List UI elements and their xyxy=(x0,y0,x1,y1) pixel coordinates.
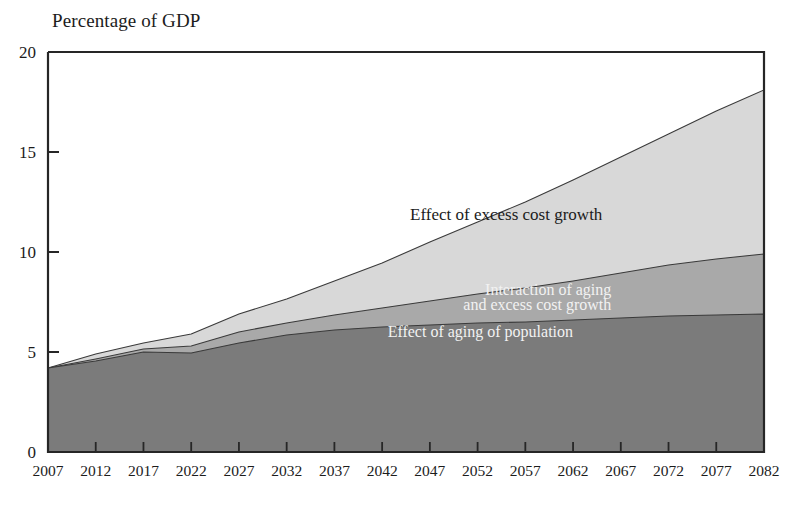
x-tick-label: 2037 xyxy=(319,462,350,479)
x-tick-label: 2077 xyxy=(701,462,732,479)
y-tick-label: 20 xyxy=(19,43,36,62)
y-tick-label: 5 xyxy=(28,343,37,362)
area-annotation-label: and excess cost growth xyxy=(463,296,611,314)
chart-container: Percentage of GDP 05101520 2007201220172… xyxy=(0,0,807,507)
y-tick-label: 10 xyxy=(19,243,36,262)
x-tick-label: 2057 xyxy=(510,462,541,479)
x-tick-label: 2067 xyxy=(605,462,636,479)
y-tick-label: 0 xyxy=(28,443,37,462)
area-annotation-label: Effect of excess cost growth xyxy=(410,205,603,224)
x-tick-label: 2007 xyxy=(33,462,64,479)
area-chart-svg: 05101520 2007201220172022202720322037204… xyxy=(0,0,807,507)
x-tick-label: 2082 xyxy=(749,462,780,479)
x-tick-label: 2012 xyxy=(80,462,111,479)
x-tick-label: 2047 xyxy=(414,462,445,479)
area-annotation-label: Effect of aging of population xyxy=(388,323,573,341)
x-tick-label: 2017 xyxy=(128,462,159,479)
y-tick-label: 15 xyxy=(19,143,36,162)
x-tick-label: 2072 xyxy=(653,462,684,479)
x-tick-label: 2052 xyxy=(462,462,493,479)
x-tick-label: 2022 xyxy=(176,462,207,479)
x-tick-label: 2062 xyxy=(558,462,589,479)
x-tick-label: 2032 xyxy=(271,462,302,479)
stacked-area-bands xyxy=(48,90,764,473)
x-tick-label: 2027 xyxy=(223,462,254,479)
x-tick-label: 2042 xyxy=(367,462,398,479)
